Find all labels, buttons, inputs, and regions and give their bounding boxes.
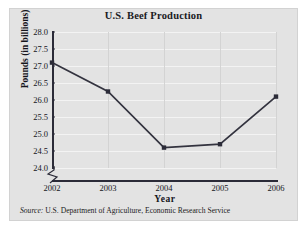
x-tick-label: 2006: [268, 183, 285, 193]
y-tick-label: 27.5: [33, 44, 48, 54]
x-axis: [52, 180, 278, 182]
y-tick-mark: [52, 117, 55, 118]
y-tick-mark: [52, 66, 55, 67]
y-tick-mark: [52, 151, 55, 152]
y-tick-label: 28.0: [33, 27, 48, 37]
y-tick-label: 25.0: [33, 129, 48, 139]
data-point-marker: [274, 94, 278, 98]
x-tick-label: 2005: [212, 183, 229, 193]
data-point-marker: [106, 89, 110, 93]
y-tick-label: 25.5: [33, 112, 48, 122]
x-tick-label: 2004: [156, 183, 173, 193]
plot-area: [52, 32, 276, 168]
chart-title: U.S. Beef Production: [9, 10, 298, 21]
y-tick-label: 24.0: [33, 163, 48, 173]
y-tick-label: 24.5: [33, 146, 48, 156]
y-tick-label: 26.0: [33, 95, 48, 105]
data-point-marker: [162, 145, 166, 149]
source-label: Source:: [20, 206, 43, 215]
series-line: [52, 63, 276, 148]
y-tick-label: 26.5: [33, 78, 48, 88]
y-tick-mark: [52, 32, 55, 33]
x-axis-label: Year: [52, 194, 278, 204]
data-series-line: [52, 32, 276, 168]
source-text: U.S. Department of Agriculture, Economic…: [43, 206, 230, 215]
vertical-gridline: [276, 32, 277, 168]
y-axis-label: Pounds (in billions): [20, 0, 30, 114]
figure-root: U.S. Beef Production 28.027.527.026.526.…: [0, 0, 307, 228]
y-tick-label: 27.0: [33, 61, 48, 71]
x-tick-label: 2002: [44, 183, 61, 193]
data-point-marker: [218, 142, 222, 146]
y-tick-mark: [52, 83, 55, 84]
source-note: Source: U.S. Department of Agriculture, …: [20, 206, 230, 215]
y-tick-mark: [52, 134, 55, 135]
gridline: [52, 168, 276, 169]
y-tick-mark: [52, 100, 55, 101]
y-tick-mark: [52, 168, 55, 169]
x-tick-label: 2003: [100, 183, 117, 193]
y-tick-mark: [52, 49, 55, 50]
